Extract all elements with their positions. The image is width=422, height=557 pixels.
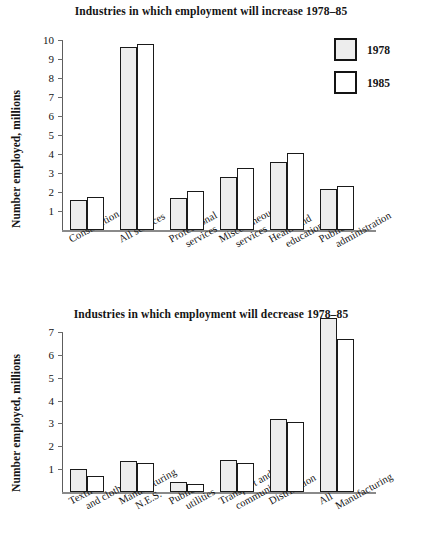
employment-increase-chart: Industries in which employment will incr… <box>0 0 422 300</box>
y-tick-mark <box>58 401 63 402</box>
y-tick-label: 8 <box>40 73 54 84</box>
y-tick-label: 4 <box>40 149 54 160</box>
y-tick-mark <box>58 97 63 98</box>
y-tick-label: 5 <box>40 130 54 141</box>
bar-1985-4 <box>287 422 304 492</box>
y-tick-mark <box>58 135 63 136</box>
bar-1985-1 <box>137 44 154 230</box>
bar-1978-0 <box>70 469 87 492</box>
bar-1978-0 <box>70 200 87 230</box>
bar-1978-3 <box>220 460 237 492</box>
bar-1978-4 <box>270 419 287 492</box>
y-tick-mark <box>58 40 63 41</box>
bar-1978-4 <box>270 162 287 230</box>
y-tick-label: 2 <box>40 441 54 452</box>
bar-1978-2 <box>170 198 187 230</box>
employment-decrease-chart: Industries in which employment will decr… <box>0 300 422 557</box>
y-tick-mark <box>58 469 63 470</box>
bar-1985-2 <box>187 484 204 492</box>
y-tick-label: 7 <box>40 92 54 103</box>
y-tick-mark <box>58 116 63 117</box>
bar-1978-1 <box>120 47 137 230</box>
bar-1985-3 <box>237 463 254 492</box>
y-tick-mark <box>58 355 63 356</box>
y-tick-label: 3 <box>40 418 54 429</box>
y-tick-label: 1 <box>40 464 54 475</box>
bar-1985-0 <box>87 476 104 492</box>
y-tick-label: 4 <box>40 395 54 406</box>
bar-1985-2 <box>187 191 204 230</box>
legend-swatch-1985 <box>334 71 357 94</box>
bar-1978-3 <box>220 177 237 230</box>
y-tick-mark <box>58 173 63 174</box>
y-axis-line <box>62 332 63 492</box>
y-tick-mark <box>58 154 63 155</box>
y-tick-label: 6 <box>40 349 54 360</box>
bar-1985-3 <box>237 168 254 230</box>
legend-item-1978: 1978 <box>334 38 390 61</box>
y-tick-label: 1 <box>40 206 54 217</box>
bar-1985-5 <box>337 186 354 230</box>
legend-label-1985: 1985 <box>367 77 390 89</box>
y-tick-mark <box>58 59 63 60</box>
legend-swatch-1978 <box>334 38 357 61</box>
bar-1978-2 <box>170 482 187 492</box>
y-tick-mark <box>58 211 63 212</box>
bar-1985-0 <box>87 197 104 230</box>
y-tick-label: 7 <box>40 327 54 338</box>
y-tick-label: 2 <box>40 187 54 198</box>
y-tick-mark <box>58 446 63 447</box>
y-tick-label: 6 <box>40 111 54 122</box>
y-tick-label: 3 <box>40 168 54 179</box>
bar-1978-5 <box>320 318 337 492</box>
y-tick-mark <box>58 332 63 333</box>
y-tick-label: 9 <box>40 54 54 65</box>
bar-1985-1 <box>137 463 154 492</box>
plot-area-decrease <box>0 300 422 557</box>
legend-item-1985: 1985 <box>334 71 390 94</box>
y-tick-mark <box>58 192 63 193</box>
y-tick-mark <box>58 378 63 379</box>
y-tick-mark <box>58 78 63 79</box>
bar-1978-1 <box>120 461 137 492</box>
bar-1985-4 <box>287 153 304 230</box>
y-tick-label: 10 <box>40 35 54 46</box>
y-tick-mark <box>58 423 63 424</box>
y-tick-label: 5 <box>40 372 54 383</box>
bar-1985-5 <box>337 339 354 492</box>
bar-1978-5 <box>320 189 337 230</box>
legend-label-1978: 1978 <box>367 44 390 56</box>
